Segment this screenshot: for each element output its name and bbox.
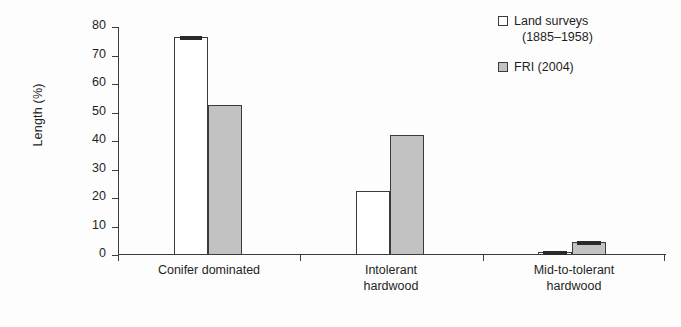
error-bar-cap <box>180 36 202 40</box>
y-tick-label-30: 30 <box>76 161 106 175</box>
x-tick-end <box>664 255 665 261</box>
x-category-line1: Mid-to-tolerant <box>482 262 666 278</box>
y-tick-20: 20 <box>112 198 118 199</box>
y-tick-50: 50 <box>112 113 118 114</box>
x-category-line2: hardwood <box>300 278 482 294</box>
legend: Land surveys (1885–1958) FRI (2004) <box>498 13 593 89</box>
legend-entry-land-surveys: Land surveys (1885–1958) <box>498 13 593 45</box>
y-tick-10: 10 <box>112 227 118 228</box>
x-category-label-mid-to-tolerant-hardwood: Mid-to-tolerant hardwood <box>482 262 666 294</box>
y-tick-label-50: 50 <box>76 104 106 118</box>
white-square-swatch-icon <box>498 16 508 26</box>
y-tick-60: 60 <box>112 84 118 85</box>
error-bar-cap <box>543 251 567 255</box>
legend-label-fri: FRI (2004) <box>514 59 574 75</box>
x-category-line2: hardwood <box>482 278 666 294</box>
bar-intolerant-hardwood-fri <box>390 135 424 255</box>
bar-conifer-dominated-land-surveys <box>174 37 208 255</box>
y-tick-label-10: 10 <box>76 218 106 232</box>
x-category-label-conifer-dominated: Conifer dominated <box>118 262 300 278</box>
y-tick-40: 40 <box>112 141 118 142</box>
gray-square-swatch-icon <box>498 62 508 72</box>
bar-intolerant-hardwood-land-surveys <box>356 191 390 255</box>
bar-chart: Length (%) 80 70 60 50 40 30 20 10 0 <box>0 0 681 327</box>
y-axis-title: Length (%) <box>31 35 45 195</box>
y-tick-70: 70 <box>112 56 118 57</box>
x-tick-2 <box>483 255 484 261</box>
bar-mid-to-tolerant-hardwood-land-surveys <box>538 252 572 255</box>
y-tick-label-70: 70 <box>76 47 106 61</box>
x-category-label-intolerant-hardwood: Intolerant hardwood <box>300 262 482 294</box>
y-tick-label-40: 40 <box>76 132 106 146</box>
legend-label-line1: FRI (2004) <box>514 60 574 74</box>
x-tick-start <box>118 255 119 261</box>
x-tick-1 <box>300 255 301 261</box>
legend-label-land-surveys: Land surveys (1885–1958) <box>514 13 593 45</box>
y-tick-label-0: 0 <box>76 246 106 260</box>
error-bar-cap <box>577 241 601 245</box>
x-category-line1: Intolerant <box>300 262 482 278</box>
y-tick-label-80: 80 <box>76 18 106 32</box>
y-tick-label-20: 20 <box>76 189 106 203</box>
legend-label-line1: Land surveys <box>514 14 588 28</box>
legend-label-line2: (1885–1958) <box>514 29 593 45</box>
x-category-line1: Conifer dominated <box>118 262 300 278</box>
y-axis-line <box>118 27 119 255</box>
y-tick-30: 30 <box>112 170 118 171</box>
bar-mid-to-tolerant-hardwood-fri <box>572 242 606 255</box>
y-tick-80: 80 <box>112 27 118 28</box>
y-tick-label-60: 60 <box>76 75 106 89</box>
legend-entry-fri: FRI (2004) <box>498 59 593 75</box>
bar-conifer-dominated-fri <box>208 105 242 255</box>
